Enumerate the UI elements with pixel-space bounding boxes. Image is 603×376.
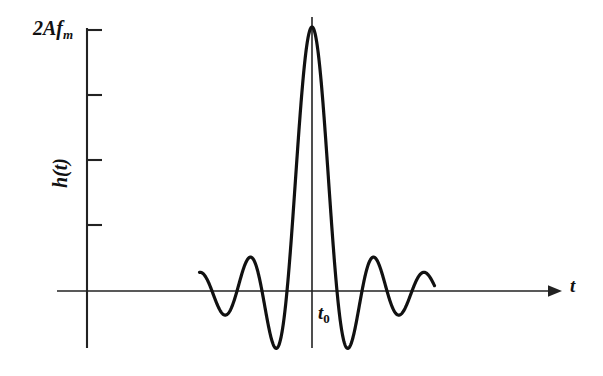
peak-amplitude-label-subscript: m: [63, 27, 73, 42]
plot-canvas: [0, 0, 603, 376]
sinc-waveform-curve: [200, 27, 435, 348]
peak-amplitude-label: 2Afm: [33, 18, 73, 41]
x-axis-label: t: [570, 276, 575, 295]
x-axis-arrowhead: [548, 285, 562, 297]
peak-amplitude-label-text: 2Af: [33, 17, 63, 39]
center-time-marker-subscript: 0: [323, 311, 330, 326]
y-axis-label: h(t): [50, 149, 70, 197]
y-axis: [87, 28, 102, 348]
sinc-impulse-response-figure: 2Afm h(t) t t0: [0, 0, 603, 376]
x-axis: [57, 285, 562, 297]
center-time-marker-label: t0: [318, 303, 330, 325]
